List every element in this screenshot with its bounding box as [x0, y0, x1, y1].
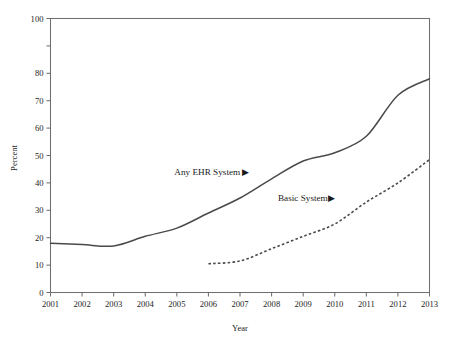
series-annotations: Any EHR System ▶Basic System▶: [174, 167, 334, 203]
y-tick-label: 70: [35, 96, 44, 106]
x-tick-label: 2007: [231, 299, 249, 309]
x-tick-label: 2011: [358, 299, 375, 309]
y-tick-label: 30: [35, 205, 44, 215]
x-axis-tick-labels: 2001200220032004200520062007200820092010…: [42, 299, 438, 309]
y-axis-title: Percent: [9, 145, 19, 171]
x-tick-label: 2009: [295, 299, 312, 309]
x-tick-label: 2010: [326, 299, 343, 309]
line-chart: 01020304050607080100 2001200220032004200…: [0, 0, 453, 345]
y-tick-label: 60: [35, 123, 44, 133]
x-tick-label: 2001: [42, 299, 59, 309]
x-axis-ticks: [51, 293, 430, 297]
x-tick-label: 2005: [168, 299, 185, 309]
y-tick-label: 10: [35, 260, 44, 270]
x-tick-label: 2002: [73, 299, 90, 309]
annotation-label-any-ehr-system: Any EHR System ▶: [174, 167, 249, 177]
y-tick-label: 0: [39, 288, 43, 298]
x-tick-label: 2008: [263, 299, 280, 309]
y-axis-tick-labels: 01020304050607080100: [31, 14, 44, 298]
x-tick-label: 2003: [105, 299, 122, 309]
series-line-any-ehr-system: [51, 79, 430, 247]
x-tick-label: 2012: [389, 299, 406, 309]
y-tick-label: 80: [35, 68, 44, 78]
x-tick-label: 2006: [200, 299, 218, 309]
y-tick-label: 100: [31, 14, 44, 24]
y-tick-label: 40: [35, 178, 44, 188]
x-axis-title: Year: [232, 323, 248, 333]
annotation-label-basic-system: Basic System▶: [278, 193, 335, 203]
chart-container: 01020304050607080100 2001200220032004200…: [0, 0, 453, 345]
y-tick-label: 20: [35, 233, 44, 243]
x-tick-label: 2013: [421, 299, 438, 309]
y-axis-ticks: [47, 19, 51, 293]
y-tick-label: 50: [35, 151, 44, 161]
plot-frame: [51, 19, 430, 293]
x-tick-label: 2004: [137, 299, 155, 309]
